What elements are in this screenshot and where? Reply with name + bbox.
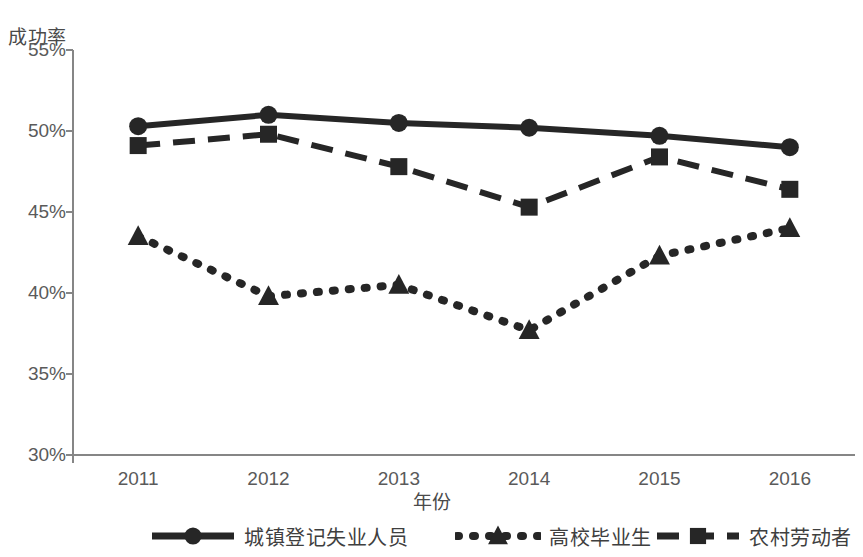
series-line	[138, 115, 790, 147]
data-point-marker	[690, 528, 706, 544]
data-point-marker	[781, 181, 798, 198]
series-1	[129, 106, 799, 156]
data-point-marker	[130, 137, 147, 154]
data-point-marker	[128, 225, 149, 245]
series-line	[138, 134, 790, 207]
legend-label: 高校毕业生	[549, 522, 652, 551]
series-line	[138, 228, 790, 330]
legend-item[interactable]: 农村劳动者	[655, 515, 852, 557]
data-point-marker	[129, 117, 147, 135]
legend-label: 农村劳动者	[749, 522, 852, 551]
line-chart: 成功率 年份 55%50%45%40%35%30% 20112012201320…	[0, 0, 863, 557]
legend-label: 城镇登记失业人员	[244, 522, 408, 551]
data-point-marker	[649, 245, 670, 265]
chart-legend: 城镇登记失业人员高校毕业生农村劳动者	[0, 515, 863, 557]
plot-area	[0, 0, 863, 557]
data-point-marker	[388, 274, 409, 294]
data-point-marker	[184, 527, 201, 544]
legend-item[interactable]: 高校毕业生	[455, 515, 652, 557]
data-point-marker	[260, 106, 278, 124]
data-point-marker	[521, 199, 538, 216]
legend-marker-square-icon	[655, 524, 741, 548]
data-point-marker	[651, 148, 668, 165]
data-point-marker	[258, 285, 279, 305]
data-point-marker	[520, 119, 538, 137]
data-point-marker	[390, 114, 408, 132]
series-2	[128, 217, 801, 339]
data-point-marker	[651, 127, 669, 145]
data-point-marker	[390, 158, 407, 175]
legend-item[interactable]: 城镇登记失业人员	[150, 515, 408, 557]
legend-marker-triangle-icon	[455, 524, 541, 548]
data-point-marker	[781, 138, 799, 156]
data-point-marker	[260, 126, 277, 143]
legend-marker-circle-icon	[150, 524, 236, 548]
